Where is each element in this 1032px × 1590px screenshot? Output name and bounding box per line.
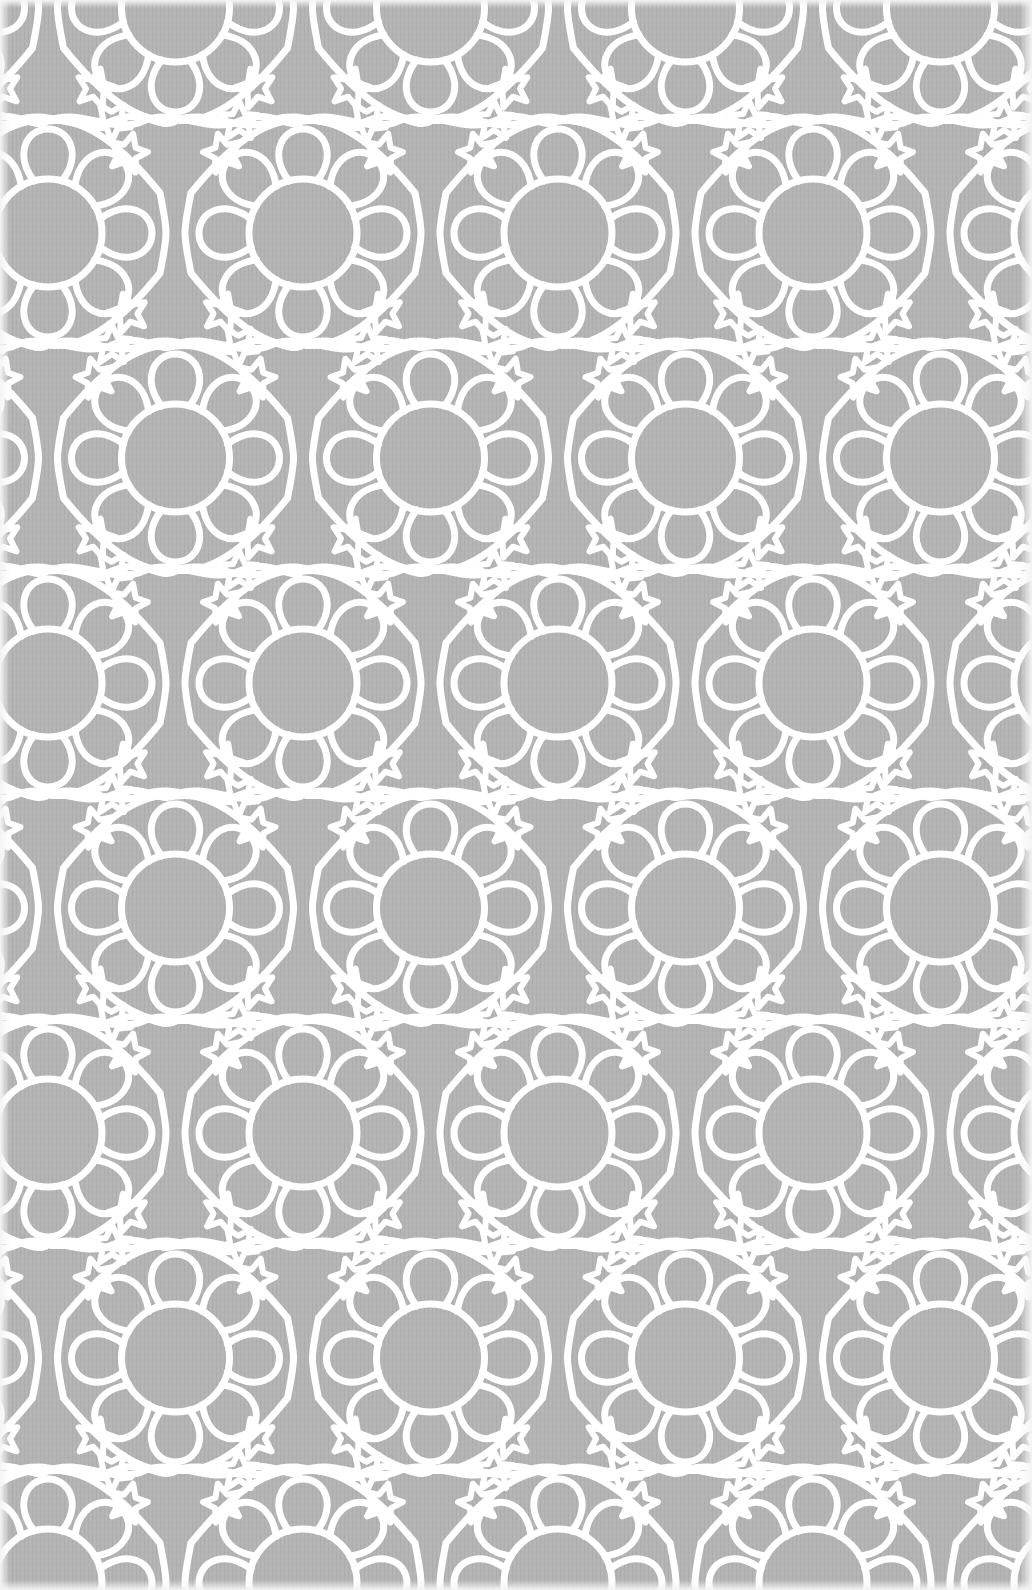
edge-bottom (0, 1580, 1032, 1590)
edge-right (1020, 0, 1032, 1590)
geometric-pattern-canvas (0, 0, 1032, 1590)
edge-left (0, 0, 10, 1590)
edge-top (0, 0, 1032, 8)
interlace-pattern (0, 0, 1032, 1590)
